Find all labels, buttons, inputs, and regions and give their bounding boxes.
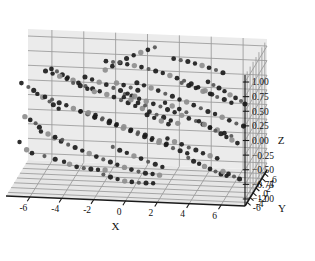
scatter-point (171, 56, 176, 61)
scatter-point (102, 167, 107, 172)
scatter-point (55, 69, 59, 73)
scatter-point (24, 147, 29, 152)
scatter-point (111, 145, 115, 149)
scatter-point (179, 142, 184, 147)
scatter-point (148, 85, 153, 90)
scatter-point (186, 156, 190, 160)
scatter-point (129, 127, 134, 132)
scatter-point (139, 156, 144, 161)
scatter-point (104, 59, 109, 64)
z-tick-label: 0.25 (252, 121, 269, 131)
scatter-point (118, 88, 123, 93)
scatter-point (22, 114, 27, 119)
scatter-point (115, 122, 119, 126)
scatter-point (129, 86, 133, 90)
scatter-point (152, 116, 156, 120)
scatter-point (101, 157, 105, 161)
scatter-point (143, 180, 148, 185)
scatter-point (88, 166, 93, 171)
scatter-point (177, 107, 182, 112)
scatter-point (28, 118, 33, 123)
z-tick-label: 1.00 (252, 77, 269, 87)
scatter-point (134, 80, 139, 85)
x-tick-label: 2 (148, 208, 153, 218)
scatter-point (74, 164, 79, 169)
scatter-point (216, 86, 221, 91)
scatter-point (50, 98, 54, 102)
scatter-point (224, 135, 228, 139)
scatter-point (64, 103, 68, 107)
scatter-point (165, 136, 169, 140)
scatter-point (122, 178, 127, 183)
scatter-point (215, 156, 220, 161)
scatter-point (35, 92, 39, 96)
scatter-point (177, 97, 181, 101)
scatter-point (213, 129, 217, 133)
scatter-point (128, 97, 133, 102)
scatter-point (50, 71, 54, 75)
scatter-point (207, 153, 212, 158)
scatter-point (115, 177, 119, 181)
scatter-point (104, 82, 109, 87)
x-tick-label: -4 (51, 204, 59, 214)
z-tick-label: 0.75 (252, 92, 269, 102)
scatter-point (199, 63, 204, 68)
scatter-point (114, 80, 119, 85)
scatter-point (39, 129, 43, 133)
scatter-point (17, 140, 21, 144)
z-tick-label: 0.50 (252, 107, 269, 117)
z-tick-label: −0.75 (252, 180, 274, 190)
scatter-point (62, 159, 66, 163)
scatter-point (138, 50, 143, 55)
scatter-point (71, 81, 75, 85)
scatter-point (172, 139, 177, 144)
scatter-point (161, 71, 165, 75)
scatter-point (191, 159, 196, 164)
plot-canvas[interactable]: -6-4-20246-6-4-202461.000.750.500.250.00… (0, 0, 315, 261)
scatter-point (184, 99, 189, 104)
scatter-point (129, 167, 134, 172)
scatter-point (125, 91, 129, 95)
scatter-point (150, 172, 154, 176)
scatter-point (53, 157, 58, 162)
scatter-point (185, 59, 190, 64)
scatter-point (57, 73, 62, 78)
scatter-point (211, 83, 215, 87)
scatter-point (153, 45, 157, 49)
x-tick-label: 6 (212, 211, 217, 221)
scatter-point (117, 60, 121, 64)
scatter-point (202, 164, 207, 169)
scatter-point (45, 131, 50, 136)
scatter-point (82, 166, 86, 170)
scatter-point (66, 143, 70, 147)
scatter-point (234, 121, 238, 125)
scatter-point (30, 151, 35, 156)
scatter-point (197, 119, 201, 123)
scatter-point (71, 106, 76, 111)
scatter-point (179, 113, 184, 118)
scatter-point (205, 109, 210, 114)
scatter-point (201, 151, 205, 155)
scatter-point (214, 68, 218, 72)
scatter-point (121, 124, 126, 129)
scatter-point (166, 122, 171, 127)
scatter-point (103, 67, 108, 72)
y-axis-title: Y (278, 202, 286, 214)
scatter-point (42, 154, 46, 158)
scatter-point (163, 92, 167, 96)
scatter-point (19, 81, 24, 86)
y-tick (247, 202, 250, 205)
scatter-point (136, 130, 140, 134)
z-axis-title: Z (278, 134, 285, 146)
scatter-point (184, 110, 188, 114)
scatter-point (153, 162, 158, 167)
scatter-point (213, 169, 217, 173)
scatter-point (82, 74, 87, 79)
scatter-point (51, 102, 56, 107)
scatter-point (142, 83, 146, 87)
scatter-point (237, 176, 242, 181)
scatter-point (78, 83, 83, 88)
scatter-point (143, 171, 148, 176)
scatter-point (193, 147, 198, 152)
scatter-point (37, 125, 42, 130)
